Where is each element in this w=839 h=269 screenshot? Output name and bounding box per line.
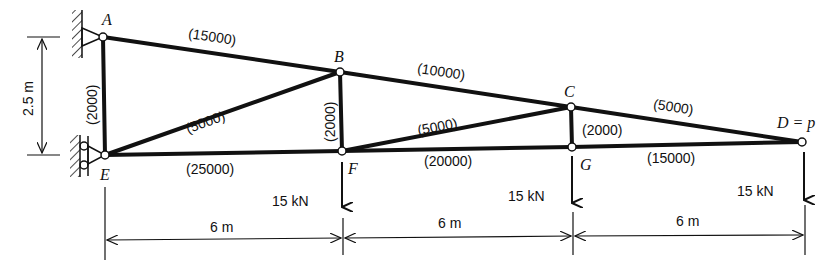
member-cg [571,107,572,147]
load-label-f: 15 kN [272,193,309,209]
member-ef [105,151,342,155]
node-label-e: E [99,166,110,183]
node-label-a: A [101,11,112,28]
joint-f [338,147,346,155]
member-label-ef: (25000) [186,161,234,177]
member-gd [572,142,802,147]
joint-a [99,33,107,41]
span-label-2: 6 m [438,215,461,231]
load-label-g: 15 kN [508,188,545,204]
joint-c [567,103,575,111]
member-label-bf: (2000) [322,102,338,142]
joint-e [101,151,109,159]
span-label-3: 6 m [676,213,699,229]
member-fg [342,147,572,151]
member-label-gd: (15000) [647,150,695,166]
load-d: 15 kN [737,152,804,200]
joint-b [336,68,344,76]
member-label-cd: (5000) [652,96,694,118]
pin-support-a [72,10,103,58]
member-label-fg: (20000) [424,153,472,169]
truss-members [103,37,802,155]
height-dimension-label: 2.5 m [20,81,36,116]
member-label-bc: (10000) [416,60,466,83]
member-label-eb: (5000) [184,108,227,137]
truss-svg: A B C D = p E F G (15000) (10000) (5000)… [0,0,839,269]
member-label-cg: (2000) [582,122,622,138]
load-label-d: 15 kN [737,183,774,199]
node-label-c: C [564,83,575,100]
node-label-g: G [580,156,592,173]
node-label-f: F [347,160,358,177]
node-label-b: B [334,48,344,65]
node-label-d: D = p [776,114,815,132]
load-f: 15 kN [272,162,342,209]
truss-diagram: A B C D = p E F G (15000) (10000) (5000)… [0,0,839,269]
member-bf [340,72,342,151]
member-label-ab: (15000) [187,25,237,48]
member-label-ae: (2000) [84,85,100,125]
member-ae [103,37,105,155]
span-label-1: 6 m [210,219,233,235]
joint-g [568,143,576,151]
joint-d [798,138,806,146]
load-g: 15 kN [508,156,572,204]
